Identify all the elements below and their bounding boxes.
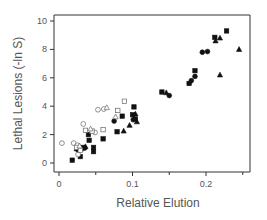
filled-triangle-point bbox=[121, 128, 126, 133]
x-tick-label: 0.2 bbox=[200, 179, 213, 189]
filled-square-point bbox=[224, 29, 228, 33]
filled-triangle-point bbox=[217, 35, 222, 40]
data-points bbox=[60, 29, 242, 163]
filled-square-point bbox=[120, 114, 124, 118]
y-tick-label: 6 bbox=[42, 73, 47, 83]
filled-square-point bbox=[91, 145, 95, 149]
open-square-point bbox=[122, 99, 126, 103]
filled-square-point bbox=[101, 137, 105, 141]
y-tick-label: 2 bbox=[42, 130, 47, 140]
y-axis-title: Lethal Lesions (-ln S) bbox=[11, 37, 25, 150]
open-circle-point bbox=[96, 107, 101, 112]
filled-triangle-point bbox=[236, 47, 241, 52]
x-tick-label: 0 bbox=[56, 179, 61, 189]
filled-square-point bbox=[193, 69, 197, 73]
open-square-point bbox=[78, 148, 82, 152]
x-axis-title: Relative Elution bbox=[116, 196, 199, 210]
filled-triangle-point bbox=[127, 123, 132, 128]
filled-circle-point bbox=[205, 49, 210, 54]
filled-circle-point bbox=[200, 50, 205, 55]
y-tick-label: 4 bbox=[42, 101, 47, 111]
open-circle-point bbox=[60, 141, 65, 146]
open-square-point bbox=[116, 108, 120, 112]
filled-circle-point bbox=[112, 119, 117, 124]
open-square-point bbox=[101, 127, 105, 131]
y-tick-label: 0 bbox=[42, 158, 47, 168]
filled-square-point bbox=[87, 138, 91, 142]
open-circle-point bbox=[76, 152, 81, 157]
open-triangle-point bbox=[113, 114, 118, 119]
y-tick-label: 8 bbox=[42, 44, 47, 54]
open-circle-point bbox=[81, 122, 86, 127]
filled-circle-point bbox=[193, 74, 198, 79]
x-ticks: 00.10.2 bbox=[56, 172, 242, 189]
y-tick-label: 10 bbox=[37, 16, 47, 26]
filled-square-point bbox=[70, 158, 74, 162]
filled-square-point bbox=[160, 90, 164, 94]
filled-triangle-point bbox=[164, 90, 169, 95]
filled-square-point bbox=[115, 130, 119, 134]
filled-circle-point bbox=[189, 78, 194, 83]
filled-circle-point bbox=[131, 117, 136, 122]
filled-square-point bbox=[132, 105, 136, 109]
open-square-point bbox=[83, 128, 87, 132]
scatter-chart: 0246810 00.10.2 Relative Elution Lethal … bbox=[0, 0, 267, 220]
filled-triangle-point bbox=[217, 72, 222, 77]
filled-square-point bbox=[91, 149, 95, 153]
y-ticks: 0246810 bbox=[37, 16, 54, 168]
x-tick-label: 0.1 bbox=[126, 179, 139, 189]
